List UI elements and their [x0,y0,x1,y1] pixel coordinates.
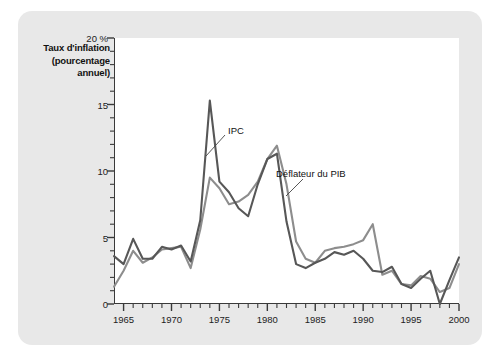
inflation-chart-figure: Taux d'inflation (pourcentage annuel) 05… [0,0,500,356]
chart-plot-area [0,0,500,356]
annotation-deflator: Déflateur du PIB [276,168,346,179]
annotation-ipc: IPC [228,125,244,136]
